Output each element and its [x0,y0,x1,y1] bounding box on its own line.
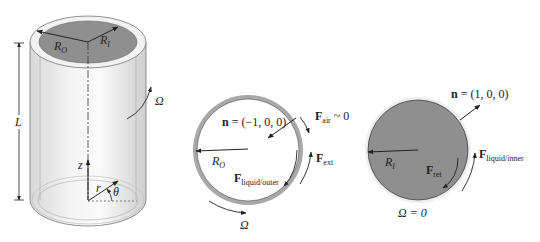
outer-cylinder-panel: n = (−1, 0, 0) RO Fair ~ 0 Fext Fliquid/… [193,95,349,232]
length-label: L [14,115,22,129]
cylinder-figure: RO RI z r θ L Ω [13,16,164,226]
r-label: r [96,181,101,195]
f-liquid-inner-label: Fliquid/inner [479,147,524,163]
z-axis-label: z [77,158,83,172]
f-ext-label: Fext [316,151,334,167]
inner-cylinder-panel: n = (1, 0, 0) RI Fret Fliquid/inner Ω = … [365,87,524,220]
diagram-canvas: RO RI z r θ L Ω n = (−1, 0, 0) RO Fair [0,0,540,242]
theta-label: θ [113,185,119,199]
omega-inner-label: Ω = 0 [398,206,427,220]
normal-vector-inner [460,105,480,120]
f-air-arrow [300,117,309,133]
omega-label: Ω [155,94,164,108]
f-air-label: Fair ~ 0 [315,109,349,125]
normal-label-outer: n = (−1, 0, 0) [222,115,286,129]
normal-label-inner: n = (1, 0, 0) [451,87,508,101]
omega-outer-label: Ω [240,218,249,232]
